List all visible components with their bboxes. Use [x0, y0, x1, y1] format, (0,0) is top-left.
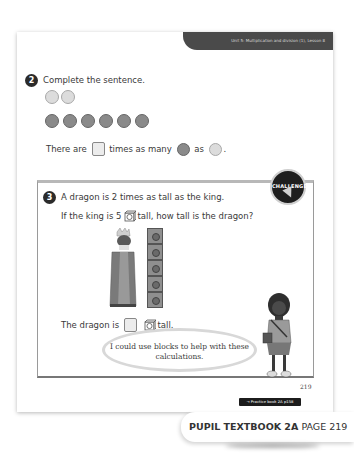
sentence-part-3: as: [194, 144, 204, 154]
footer-tab: PUPIL TEXTBOOK 2A PAGE 219: [181, 412, 354, 442]
dark-counter: [135, 114, 149, 128]
sentence-part-4: .: [224, 144, 227, 154]
block-tower: [147, 228, 163, 308]
block: [147, 244, 163, 260]
dark-counter: [99, 114, 113, 128]
footer-shadow: [225, 444, 320, 448]
page-label: PAGE 219: [301, 421, 347, 432]
king-illustration: [106, 228, 140, 308]
light-counter-icon: [209, 143, 222, 156]
answer-box[interactable]: [92, 142, 105, 156]
block: [147, 276, 163, 292]
line-2-after: tall, how tall is the dragon?: [138, 211, 254, 221]
sentence-part-1: There are: [46, 144, 87, 154]
light-counter: [61, 90, 75, 104]
block: [147, 292, 163, 308]
speech-bubble: I could use blocks to help with these ca…: [102, 328, 257, 372]
speech-bubble-text: I could use blocks to help with these ca…: [105, 342, 254, 362]
cube-icon: [124, 210, 136, 222]
book-title: PUPIL TEXTBOOK 2A: [189, 421, 298, 432]
block: [147, 228, 163, 244]
dark-counter: [63, 114, 77, 128]
question-number-2: 2: [25, 74, 38, 87]
dark-counter-icon: [177, 143, 190, 156]
answer-box[interactable]: [124, 318, 137, 332]
practice-book-link[interactable]: → Practice book 2A p158: [239, 398, 301, 406]
light-counter: [45, 90, 59, 104]
block: [147, 260, 163, 276]
line-2-before: If the king is 5: [61, 211, 122, 221]
sentence-part-2: times as many: [109, 144, 172, 154]
answer-before: The dragon is: [61, 320, 119, 330]
challenge-badge: CHALLENGE: [270, 169, 306, 205]
dark-counter: [117, 114, 131, 128]
girl-character-illustration: [255, 291, 303, 379]
question-number-3: 3: [43, 191, 56, 204]
dark-counter: [45, 114, 59, 128]
page-number: 219: [300, 383, 311, 390]
question-2-prompt: Complete the sentence.: [43, 75, 145, 85]
question-3-line-1: A dragon is 2 times as tall as the king.: [61, 192, 224, 202]
textbook-page: Unit 5: Multiplication and division (1),…: [17, 32, 333, 412]
unit-banner: Unit 5: Multiplication and division (1),…: [183, 32, 333, 50]
question-3-line-2: If the king is 5tall, how tall is the dr…: [61, 210, 253, 222]
question-2-sentence: There are times as many as .: [46, 142, 226, 156]
dark-counter: [81, 114, 95, 128]
